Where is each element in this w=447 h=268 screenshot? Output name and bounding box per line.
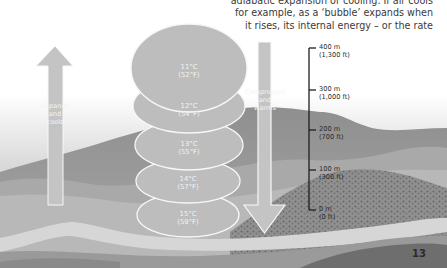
label-line: Compresses	[240, 88, 290, 96]
temp-celsius: 12°C	[159, 102, 219, 110]
altitude-feet: (0 ft)	[319, 213, 335, 221]
label-line: Expands	[34, 102, 76, 110]
altitude-meters: 300 m	[319, 85, 350, 93]
air-parcel-stack	[131, 24, 247, 237]
temp-celsius: 15°C	[158, 210, 218, 218]
parcel-temp-11: 11°C (52°F)	[159, 63, 219, 80]
temp-fahrenheit: (59°F)	[158, 218, 218, 226]
temp-celsius: 13°C	[159, 140, 219, 148]
altitude-meters: 100 m	[319, 165, 344, 173]
altitude-100m: 100 m (300 ft)	[319, 165, 344, 181]
adiabatic-diagram	[0, 0, 447, 268]
temp-fahrenheit: (55°F)	[159, 148, 219, 156]
parcel-temp-13: 13°C (55°F)	[159, 140, 219, 157]
label-line: warms	[240, 104, 290, 112]
down-arrow-label: Compresses and warms	[240, 88, 290, 112]
altitude-meters: 0 m	[319, 205, 335, 213]
altitude-300m: 300 m (1,000 ft)	[319, 85, 350, 101]
page: adiabatic expansion or cooling. If air c…	[0, 0, 447, 268]
parcel-temp-15: 15°C (59°F)	[158, 210, 218, 227]
altitude-feet: (1,300 ft)	[319, 51, 350, 59]
parcel-temp-14: 14°C (57°F)	[158, 175, 218, 192]
altitude-feet: (1,000 ft)	[319, 93, 350, 101]
altitude-meters: 200 m	[319, 125, 344, 133]
altitude-feet: (300 ft)	[319, 173, 344, 181]
altitude-meters: 400 m	[319, 43, 350, 51]
temp-fahrenheit: (52°F)	[159, 71, 219, 79]
arrow-down-icon	[244, 42, 285, 233]
altitude-feet: (700 ft)	[319, 133, 344, 141]
label-line: and	[34, 110, 76, 118]
altitude-200m: 200 m (700 ft)	[319, 125, 344, 141]
altitude-400m: 400 m (1,300 ft)	[319, 43, 350, 59]
altitude-scale-bar	[309, 48, 316, 210]
temp-fahrenheit: (54°F)	[159, 110, 219, 118]
label-line: and	[240, 96, 290, 104]
page-number: 13	[412, 248, 426, 259]
temp-celsius: 14°C	[158, 175, 218, 183]
temp-celsius: 11°C	[159, 63, 219, 71]
altitude-0m: 0 m (0 ft)	[319, 205, 335, 221]
up-arrow-label: Expands and cools	[34, 102, 76, 126]
label-line: cools	[34, 118, 76, 126]
temp-fahrenheit: (57°F)	[158, 183, 218, 191]
parcel-temp-12: 12°C (54°F)	[159, 102, 219, 119]
